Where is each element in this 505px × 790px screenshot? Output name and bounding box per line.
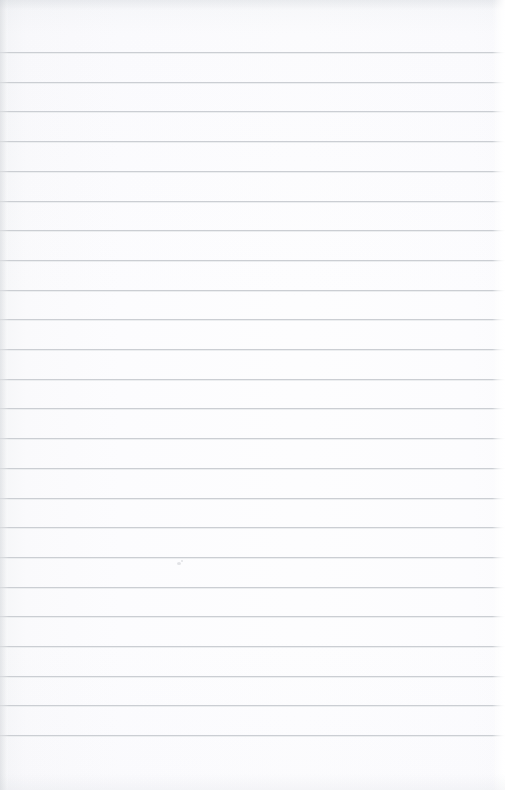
- ruled-line: [0, 587, 505, 588]
- ruled-line: [0, 498, 505, 499]
- ruled-line: [0, 260, 505, 261]
- ruled-line: [0, 408, 505, 409]
- ruled-line: [0, 141, 505, 142]
- ruled-line: [0, 676, 505, 677]
- ruled-line: [0, 646, 505, 647]
- ruled-line: [0, 52, 505, 53]
- ruled-line: [0, 230, 505, 231]
- ruled-line: [0, 111, 505, 112]
- ruled-line: [0, 379, 505, 380]
- ruled-line: [0, 438, 505, 439]
- ruled-line: [0, 349, 505, 350]
- ruled-lines-group: [0, 0, 505, 790]
- ruled-line: [0, 201, 505, 202]
- ruled-line: [0, 319, 505, 320]
- ruled-line: [0, 171, 505, 172]
- ruled-line: [0, 290, 505, 291]
- ruled-line: [0, 468, 505, 469]
- ruled-line: [0, 735, 505, 736]
- ruled-line: [0, 82, 505, 83]
- ruled-line: [0, 616, 505, 617]
- ruled-line: [0, 557, 505, 558]
- ruled-line: [0, 705, 505, 706]
- ruled-line: [0, 527, 505, 528]
- lined-paper-page: [0, 0, 505, 790]
